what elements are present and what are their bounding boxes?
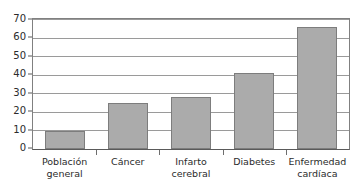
x-axis-category-label: Poblacióngeneral xyxy=(33,156,96,180)
x-axis-tick-mark xyxy=(96,150,97,155)
x-axis-tick-mark xyxy=(223,150,224,155)
bar-slot xyxy=(286,19,349,149)
x-axis-category-label-line: cardíaca xyxy=(287,168,348,180)
x-axis-tick-mark xyxy=(286,150,287,155)
bar-slot xyxy=(223,19,286,149)
x-axis-category-label: Cáncer xyxy=(96,156,159,180)
bar[interactable] xyxy=(234,73,274,149)
y-axis-tick-label: 30 xyxy=(0,88,26,98)
x-axis-category-label-line: Infarto xyxy=(160,156,221,168)
bar[interactable] xyxy=(108,103,148,149)
bar-chart: 010203040506070 PoblacióngeneralCáncerIn… xyxy=(0,0,361,195)
x-axis-category-label-line: Diabetes xyxy=(224,156,285,168)
x-axis-category-label-line: cerebral xyxy=(160,168,221,180)
y-axis-tick-label: 60 xyxy=(0,32,26,42)
y-axis-tick-label: 40 xyxy=(0,69,26,79)
y-axis-tick-label: 20 xyxy=(0,106,26,116)
y-axis-tick-label: 50 xyxy=(0,51,26,61)
y-axis-tick-mark xyxy=(28,37,32,38)
bar-slot xyxy=(33,19,96,149)
y-axis-tick-mark xyxy=(28,92,32,93)
bar-slot xyxy=(159,19,222,149)
y-axis-tick-mark xyxy=(28,111,32,112)
y-axis-tick-label: 10 xyxy=(0,125,26,135)
y-axis-tick-mark xyxy=(28,19,32,20)
x-axis-category-label-line: Cáncer xyxy=(97,156,158,168)
bar[interactable] xyxy=(45,131,85,149)
x-axis-category-label: Infartocerebral xyxy=(159,156,222,180)
y-axis-tick-label: 70 xyxy=(0,14,26,24)
y-axis-tick-label: 0 xyxy=(0,143,26,153)
bar[interactable] xyxy=(171,97,211,149)
x-axis-tick-mark xyxy=(159,150,160,155)
bar[interactable] xyxy=(297,27,337,149)
x-axis-category-label: Diabetes xyxy=(223,156,286,180)
y-axis-tick-mark xyxy=(28,148,32,149)
x-axis-category-label: Enfermedadcardíaca xyxy=(286,156,349,180)
bars-layer xyxy=(33,19,349,149)
x-axis-category-label-line: general xyxy=(34,168,95,180)
y-axis-tick-mark xyxy=(28,55,32,56)
y-axis-tick-mark xyxy=(28,74,32,75)
bar-slot xyxy=(96,19,159,149)
x-axis-labels: PoblacióngeneralCáncerInfartocerebralDia… xyxy=(33,156,349,180)
x-axis-category-label-line: Enfermedad xyxy=(287,156,348,168)
x-axis-ticks xyxy=(33,150,349,155)
y-axis-tick-mark xyxy=(28,129,32,130)
x-axis-category-label-line: Población xyxy=(34,156,95,168)
